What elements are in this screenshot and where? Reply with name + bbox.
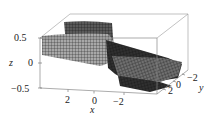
z-tick-neg0.5: −0.5 xyxy=(11,84,29,94)
y-axis-label: y xyxy=(199,83,203,93)
x-tick-2: 2 xyxy=(65,95,70,105)
y-tick-0: 0 xyxy=(176,80,181,90)
x-axis-label: x xyxy=(90,105,94,115)
z-tick-0.5: 0.5 xyxy=(14,33,27,43)
z-tick-0: 0 xyxy=(28,58,33,68)
z-axis-label: z xyxy=(9,58,13,68)
y-tick-neg2: −2 xyxy=(187,73,198,83)
y-tick-2: 2 xyxy=(168,86,173,96)
x-tick-neg2: −2 xyxy=(113,97,124,107)
